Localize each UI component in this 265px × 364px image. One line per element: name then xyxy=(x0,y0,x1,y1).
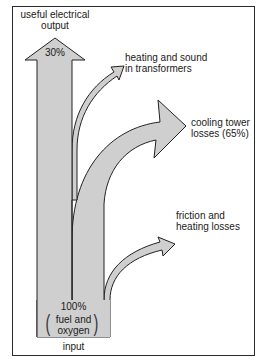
input-label: input xyxy=(37,341,110,352)
right-parenthesis: ) xyxy=(94,311,99,335)
cooling-loss-line2: losses (65%) xyxy=(191,128,250,139)
output-label-line2: output xyxy=(10,20,100,31)
output-label: useful electrical output xyxy=(10,9,100,31)
friction-loss-arrow xyxy=(104,237,175,337)
output-label-line1: useful electrical xyxy=(10,9,100,20)
friction-loss-line1: friction and xyxy=(176,210,240,221)
cooling-loss-line1: cooling tower xyxy=(191,117,250,128)
left-parenthesis: ( xyxy=(46,311,51,335)
cooling-loss-label: cooling tower losses (65%) xyxy=(191,117,250,139)
transformer-loss-label: heating and sound in transformers xyxy=(125,52,207,74)
output-percent: 30% xyxy=(35,47,75,58)
transformer-loss-line2: in transformers xyxy=(125,63,207,74)
friction-loss-line2: heating losses xyxy=(176,221,240,232)
transformer-loss-line1: heating and sound xyxy=(125,52,207,63)
friction-loss-label: friction and heating losses xyxy=(176,210,240,232)
